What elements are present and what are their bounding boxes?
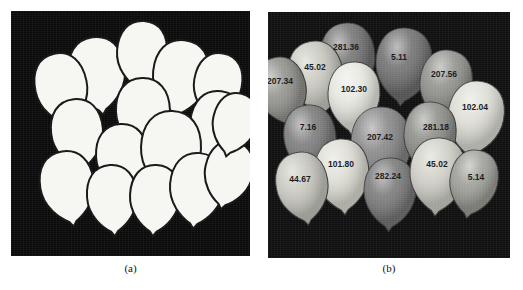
panel-b-labeled-image: 281.3645.02207.34102.305.11207.56102.047… xyxy=(268,12,510,258)
caption-a: (a) xyxy=(11,262,250,274)
panel-b-svg: 281.3645.02207.34102.305.11207.56102.047… xyxy=(268,12,510,258)
balloon-value-label: 7.16 xyxy=(300,122,317,132)
balloon-value-label: 5.14 xyxy=(468,172,485,182)
balloon-value-label: 102.30 xyxy=(341,84,367,94)
balloon-value-label: 207.42 xyxy=(367,132,393,142)
balloon-value-label: 45.02 xyxy=(426,159,448,169)
caption-b: (b) xyxy=(268,262,510,274)
figure-container: (a) 281.3645.02207.34102.305.11207.56102… xyxy=(0,0,523,290)
balloon-value-label: 281.36 xyxy=(333,42,359,52)
panel-a-binary-image xyxy=(11,11,250,256)
balloon-value-label: 282.24 xyxy=(375,171,401,181)
panel-a-svg xyxy=(11,11,250,256)
balloon-value-label: 44.67 xyxy=(289,174,311,184)
balloon-value-label: 207.34 xyxy=(268,76,293,86)
balloon-value-label: 5.11 xyxy=(391,52,407,62)
balloon-value-label: 101.80 xyxy=(328,159,354,169)
balloon-value-label: 45.02 xyxy=(304,62,326,72)
balloon-value-label: 207.56 xyxy=(431,69,457,79)
balloon-value-label: 102.04 xyxy=(462,102,488,112)
balloon-value-label: 281.18 xyxy=(423,122,449,132)
